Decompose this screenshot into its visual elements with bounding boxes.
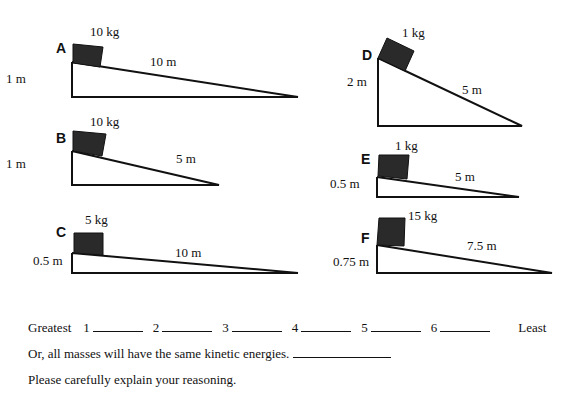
block-d-icon: [378, 38, 414, 71]
explain-prompt: Please carefully explain your reasoning.: [28, 372, 236, 388]
length-label: 10 m: [150, 54, 176, 69]
length-label: 5 m: [462, 82, 482, 97]
block-f-icon: [377, 218, 405, 246]
least-label: Least: [518, 320, 546, 336]
length-label: 5 m: [176, 151, 196, 166]
length-label: 5 m: [455, 169, 475, 184]
ramp-b: B 10 kg 1 m 5 m: [6, 114, 219, 185]
rank-blank[interactable]: [162, 320, 212, 332]
ramp-label: B: [56, 130, 66, 146]
block-e-icon: [378, 155, 409, 179]
ramp-label: E: [361, 151, 370, 167]
mass-label: 10 kg: [90, 114, 120, 129]
ramp-a: A 10 kg 1 m 10 m: [6, 24, 298, 97]
ramp-diagrams: A 10 kg 1 m 10 m B 10 kg 1 m 5 m C 5 kg …: [0, 0, 587, 300]
mass-label: 15 kg: [408, 208, 438, 223]
rank-slot-3[interactable]: 3: [222, 320, 282, 336]
block-a-icon: [73, 44, 103, 67]
same-energy-row: Or, all masses will have the same kineti…: [28, 346, 391, 362]
mass-label: 5 kg: [85, 212, 108, 227]
height-label: 2 m: [347, 74, 367, 89]
length-label: 10 m: [175, 245, 201, 260]
rank-slot-4[interactable]: 4: [292, 320, 352, 336]
rank-slot-5[interactable]: 5: [361, 320, 421, 336]
block-b-icon: [73, 131, 106, 156]
ramp-d: D 1 kg 2 m 5 m: [347, 25, 522, 126]
height-label: 0.75 m: [333, 254, 369, 269]
height-label: 1 m: [6, 156, 26, 171]
rank-blank[interactable]: [440, 320, 490, 332]
greatest-label: Greatest: [28, 320, 71, 336]
ramp-label: C: [56, 224, 66, 240]
mass-label: 1 kg: [395, 138, 418, 153]
rank-blank[interactable]: [371, 320, 421, 332]
rank-slot-1[interactable]: 1: [83, 320, 143, 336]
same-energy-blank[interactable]: [293, 346, 391, 358]
rank-blank[interactable]: [301, 320, 351, 332]
rank-slot-2[interactable]: 2: [153, 320, 213, 336]
mass-label: 10 kg: [90, 24, 120, 39]
ramp-label: F: [361, 230, 370, 246]
same-energy-option: Or, all masses will have the same kineti…: [28, 346, 289, 361]
ramp-c: C 5 kg 0.5 m 10 m: [33, 212, 298, 273]
length-label: 7.5 m: [467, 238, 497, 253]
ranking-row: Greatest 1 2 3 4 5 6 Least: [28, 320, 546, 336]
rank-blank[interactable]: [232, 320, 282, 332]
mass-label: 1 kg: [402, 25, 425, 40]
ramp-label: A: [56, 40, 66, 56]
ramp-f: F 15 kg 0.75 m 7.5 m: [333, 208, 552, 273]
height-label: 0.5 m: [330, 176, 360, 191]
height-label: 0.5 m: [33, 253, 63, 268]
rank-slot-6[interactable]: 6: [431, 320, 491, 336]
ramp-label: D: [362, 47, 372, 63]
rank-blank[interactable]: [93, 320, 143, 332]
block-c-icon: [74, 233, 103, 255]
ramp-e: E 1 kg 0.5 m 5 m: [330, 138, 519, 197]
height-label: 1 m: [6, 71, 26, 86]
